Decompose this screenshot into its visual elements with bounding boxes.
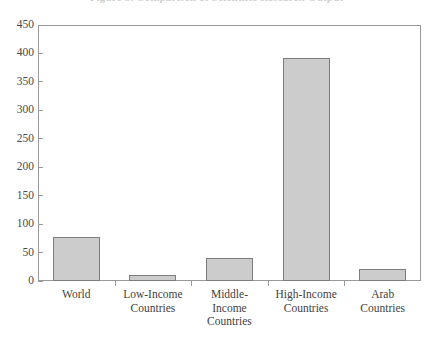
bar <box>359 269 406 281</box>
bar <box>53 237 100 281</box>
cropped-title-text: Figure 3. Comparison of Scientific Resea… <box>0 0 433 3</box>
bar-series <box>38 25 421 281</box>
bar-chart: Figure 3. Comparison of Scientific Resea… <box>0 0 433 342</box>
y-axis-tick-label: 100 <box>0 218 34 230</box>
x-axis-tick-mark <box>268 281 269 286</box>
x-axis-category-label-line: Low-Income <box>115 288 192 302</box>
x-axis-category-label: Middle-IncomeCountries <box>191 288 268 329</box>
x-axis-category-label-line: Countries <box>268 302 345 316</box>
x-axis-category-label-line: Middle- <box>191 288 268 302</box>
x-axis-tick-mark <box>344 281 345 286</box>
x-axis-category-label-line: Countries <box>191 315 268 329</box>
x-axis-tick-mark <box>115 281 116 286</box>
y-axis-tick-label: 300 <box>0 104 34 116</box>
bar <box>206 258 253 281</box>
x-axis-category-label: World <box>38 288 115 302</box>
y-axis-tick-label: 400 <box>0 47 34 59</box>
x-axis-category-label-line: Arab <box>344 288 421 302</box>
y-axis-tick-label: 250 <box>0 133 34 145</box>
x-axis-category-label: High-IncomeCountries <box>268 288 345 315</box>
y-axis-tick-label: 0 <box>0 275 34 287</box>
bar <box>129 275 176 281</box>
x-axis-category-label-line: High-Income <box>268 288 345 302</box>
bar <box>283 58 330 281</box>
x-axis-category-label-line: Countries <box>344 302 421 316</box>
x-axis-category-label-line: Countries <box>115 302 192 316</box>
x-axis-category-label: ArabCountries <box>344 288 421 315</box>
x-axis-category-label-line: Income <box>191 302 268 316</box>
y-axis-tick-label: 200 <box>0 161 34 173</box>
x-axis-category-label-line: World <box>38 288 115 302</box>
x-axis-category-label: Low-IncomeCountries <box>115 288 192 315</box>
y-axis-tick-label: 350 <box>0 76 34 88</box>
x-axis-tick-mark <box>191 281 192 286</box>
y-axis-tick-label: 50 <box>0 247 34 259</box>
y-axis-tick-label: 450 <box>0 19 34 31</box>
y-axis-tick-label: 150 <box>0 190 34 202</box>
